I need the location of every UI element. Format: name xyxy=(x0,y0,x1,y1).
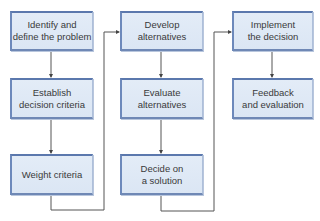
step-evaluate-alternatives: Evaluate alternatives xyxy=(120,78,203,119)
step-implement-decision: Implement the decision xyxy=(232,11,313,51)
step-identify-problem: Identify and define the problem xyxy=(10,11,93,51)
step-decide-solution: Decide on a solution xyxy=(120,154,203,195)
step-weight-criteria: Weight criteria xyxy=(10,154,93,195)
step-establish-criteria: Establish decision criteria xyxy=(10,78,93,119)
step-feedback-evaluation: Feedback and evaluation xyxy=(232,78,313,119)
step-develop-alternatives: Develop alternatives xyxy=(120,11,203,51)
decision-process-diagram: Identify and define the problem Establis… xyxy=(0,0,320,221)
